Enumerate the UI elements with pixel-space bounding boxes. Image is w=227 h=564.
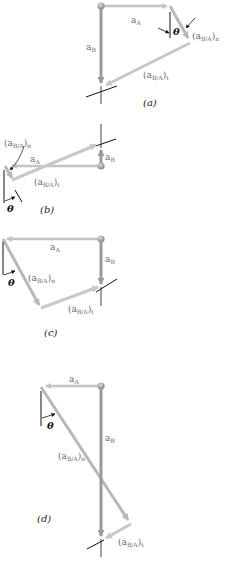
point-B (97, 162, 104, 169)
label-a-BA-n: (aB/A)n (28, 273, 55, 284)
vector-a-BA-t (12, 145, 96, 180)
theta-symbol: θ (8, 277, 15, 288)
panel-a: θ aA aB (aB/A)n (aB/A)t (a) (86, 2, 219, 108)
caption-c: (c) (44, 327, 58, 338)
label-a-B: aB (105, 254, 115, 265)
label-a-BA-n: (aB/A)n (58, 451, 85, 462)
theta-arc-indicator (42, 414, 55, 418)
label-a-BA-t: (aB/A)t (68, 304, 94, 315)
theta-symbol: θ (7, 203, 14, 214)
acceleration-vector-diagrams: θ aA aB (aB/A)n (aB/A)t (a) θ (aB/A)n aA… (0, 0, 227, 564)
theta-symbol: θ (173, 26, 180, 37)
vector-a-BA-n (3, 239, 39, 305)
point-B (97, 235, 104, 242)
vector-a-BA-n (5, 166, 12, 178)
panel-b: θ (aB/A)n aA aB (aB/A)t (b) (4, 124, 116, 215)
label-a-B: aB (105, 433, 115, 444)
label-a-B: aB (105, 152, 115, 163)
label-a-BA-t: (aB/A)t (118, 537, 144, 548)
vector-a-BA-t (106, 524, 131, 538)
panel-c: θ aA aB (aB/A)n (aB/A)t (c) (3, 235, 117, 338)
caption-b: (b) (40, 204, 54, 215)
label-a-BA-n: (aB/A)n (192, 31, 219, 42)
panel-d: θ aA aB (aB/A)n (aB/A)t (d) (37, 374, 144, 557)
vector-a-BA-n (41, 387, 128, 520)
label-a-A: aA (69, 374, 79, 385)
theta-symbol: θ (47, 420, 54, 431)
caption-d: (d) (37, 513, 51, 524)
label-a-A: aA (50, 242, 60, 253)
label-a-BA-t: (aB/A)t (143, 70, 169, 81)
caption-a: (a) (143, 97, 157, 108)
label-a-B: aB (86, 42, 96, 53)
reference-tick (96, 279, 117, 292)
label-a-A: aA (131, 15, 141, 26)
theta-arc-indicator (4, 271, 15, 275)
label-a-A: aA (30, 154, 40, 165)
label-a-BA-n: (aB/A)n (4, 138, 31, 149)
label-a-BA-t: (aB/A)t (34, 177, 60, 188)
theta-arc-indicator (5, 197, 15, 201)
point-B (97, 382, 104, 389)
theta-arrow-left (158, 28, 169, 33)
point-B (97, 2, 104, 9)
theta-arrow-right (186, 18, 195, 28)
theta-reference-tick (15, 190, 22, 202)
